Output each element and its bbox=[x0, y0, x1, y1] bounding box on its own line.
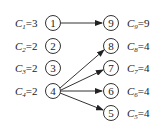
svg-text:2: 2 bbox=[50, 40, 56, 52]
svg-text:1: 1 bbox=[50, 17, 56, 29]
node-8: 8 bbox=[104, 39, 119, 54]
edge-4-5 bbox=[60, 93, 103, 110]
svg-text:3: 3 bbox=[50, 62, 56, 74]
label-c1: C1=3 bbox=[15, 17, 38, 31]
node-9: 9 bbox=[104, 16, 119, 31]
svg-text:5: 5 bbox=[108, 107, 114, 119]
node-6: 6 bbox=[104, 84, 119, 99]
svg-text:4: 4 bbox=[50, 85, 56, 97]
label-c4: C4=2 bbox=[15, 85, 38, 99]
node-2: 2 bbox=[46, 39, 61, 54]
svg-text:8: 8 bbox=[108, 40, 114, 52]
node-5: 5 bbox=[104, 106, 119, 121]
node-7: 7 bbox=[104, 61, 119, 76]
edge-4-7 bbox=[61, 70, 103, 90]
node-4: 4 bbox=[46, 84, 61, 99]
label-c6: C6=4 bbox=[127, 85, 150, 99]
graph-diagram: 1 2 3 4 9 8 7 6 5 C1=3 C2=2 C3=2 C4=2 C9… bbox=[0, 0, 161, 131]
edge-4-8 bbox=[60, 50, 104, 88]
label-c2: C2=2 bbox=[15, 40, 38, 54]
label-c8: C8=4 bbox=[127, 40, 150, 54]
node-1: 1 bbox=[46, 16, 61, 31]
label-c7: C7=4 bbox=[127, 62, 150, 76]
svg-text:6: 6 bbox=[108, 85, 114, 97]
label-c3: C3=2 bbox=[15, 62, 38, 76]
svg-text:7: 7 bbox=[108, 62, 114, 74]
label-c9: C9=9 bbox=[127, 17, 150, 31]
node-3: 3 bbox=[46, 61, 61, 76]
label-c5: C5=4 bbox=[127, 107, 150, 121]
svg-text:9: 9 bbox=[108, 17, 114, 29]
